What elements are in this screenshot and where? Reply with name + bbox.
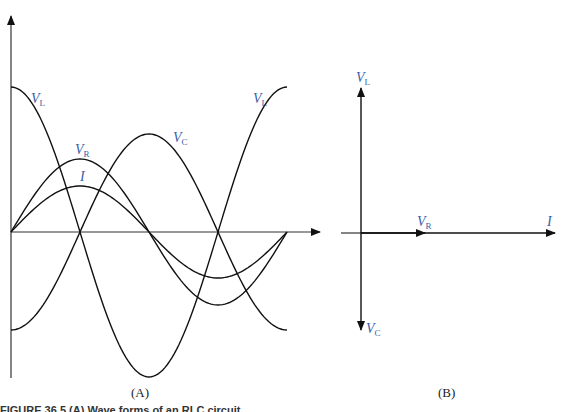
- vr-label: VR: [75, 142, 90, 159]
- vc-label: VC: [173, 130, 188, 147]
- current-label: I: [79, 169, 86, 184]
- panel-b-label: (B): [438, 385, 455, 400]
- phasor-current-label: I: [546, 214, 553, 229]
- vl-label-left: VL: [31, 91, 45, 108]
- figure-caption: FIGURE 36.5 (A) Wave forms of an RLC cir…: [0, 404, 567, 412]
- phasor-vr-label: VR: [417, 214, 432, 231]
- panel-a-label: (A): [131, 385, 149, 400]
- phasor-vl-label: VL: [356, 70, 370, 87]
- waveform-panel-a: VL VL VR I VC (A): [11, 16, 320, 400]
- rlc-figure: VL VL VR I VC (A) VL VC VR I (B): [0, 0, 567, 412]
- vl-label-right: VL: [253, 91, 267, 108]
- phasor-panel-b: VL VC VR I (B): [341, 70, 555, 400]
- caption-text: FIGURE 36.5 (A) Wave forms of an RLC cir…: [0, 405, 567, 412]
- phasor-vc-label: VC: [366, 321, 381, 338]
